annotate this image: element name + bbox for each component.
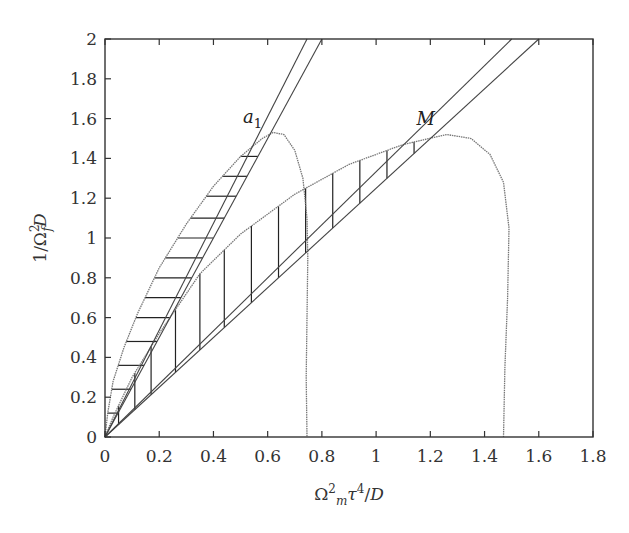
- y-tick-label: 1.6: [70, 109, 97, 129]
- y-tick-label: 1: [86, 228, 97, 248]
- boundary-line: [105, 39, 539, 437]
- x-axis-title: Ω2mτ4/D: [314, 482, 384, 508]
- y-tick-label: 1.4: [70, 148, 97, 168]
- x-tick-label: 1.2: [417, 446, 444, 466]
- x-tick-label: 1.4: [471, 446, 498, 466]
- x-tick-label: 0: [100, 446, 111, 466]
- annotation-m: M: [416, 108, 436, 129]
- y-tick-label: 1.8: [70, 69, 97, 89]
- boundary-line: [105, 39, 512, 437]
- x-tick-label: 1: [371, 446, 382, 466]
- y-tick-label: 0.2: [70, 387, 97, 407]
- y-tick-label: 0.4: [70, 347, 97, 367]
- y-tick-label: 2: [86, 29, 97, 49]
- y-tick-label: 0.8: [70, 268, 97, 288]
- annotation-a1: a1: [243, 106, 262, 131]
- hatch-lines: [108, 142, 414, 425]
- annotations: a1M: [243, 106, 436, 131]
- y-tick-labels: 00.20.40.60.811.21.41.61.82: [70, 29, 97, 447]
- y-tick-label: 0.6: [70, 308, 97, 328]
- x-tick-label: 0.2: [146, 446, 173, 466]
- y-tick-label: 0: [86, 427, 97, 447]
- x-tick-label: 0.8: [308, 446, 335, 466]
- x-tick-labels: 00.20.40.60.811.21.41.61.8: [100, 446, 607, 466]
- x-tick-label: 0.4: [200, 446, 227, 466]
- chart: 00.20.40.60.811.21.41.61.8 00.20.40.60.8…: [0, 0, 629, 533]
- boundary-line: [105, 39, 307, 437]
- boundary-line: [105, 39, 322, 437]
- x-tick-label: 1.8: [579, 446, 606, 466]
- y-axis-title: 1/Ω2fD: [28, 213, 54, 263]
- x-tick-label: 0.6: [254, 446, 281, 466]
- x-tick-label: 1.6: [525, 446, 552, 466]
- y-tick-label: 1.2: [70, 188, 97, 208]
- data-curves: [105, 39, 539, 437]
